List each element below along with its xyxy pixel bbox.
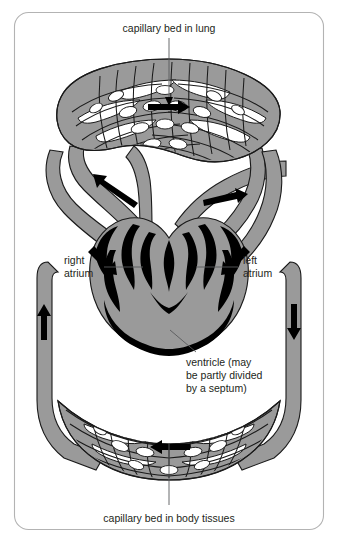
label-ventricle-line2: be partly divided (186, 369, 263, 381)
capillary-bed-lung (57, 59, 280, 166)
label-capillary-bed-body-tissues: capillary bed in body tissues (103, 512, 234, 524)
label-ventricle-line3: by a septum) (186, 382, 247, 394)
label-left-atrium-line1: left (243, 254, 257, 266)
figure-container: capillary bed in lung capillary bed in b… (0, 0, 338, 542)
label-ventricle-line1: ventricle (may (186, 356, 252, 368)
label-left-atrium-line2: atrium (243, 267, 272, 279)
circulation-diagram: capillary bed in lung capillary bed in b… (0, 0, 338, 542)
label-right-atrium-line2: atrium (64, 267, 93, 279)
label-capillary-bed-lung: capillary bed in lung (123, 22, 216, 34)
label-right-atrium-line1: right (64, 254, 85, 266)
